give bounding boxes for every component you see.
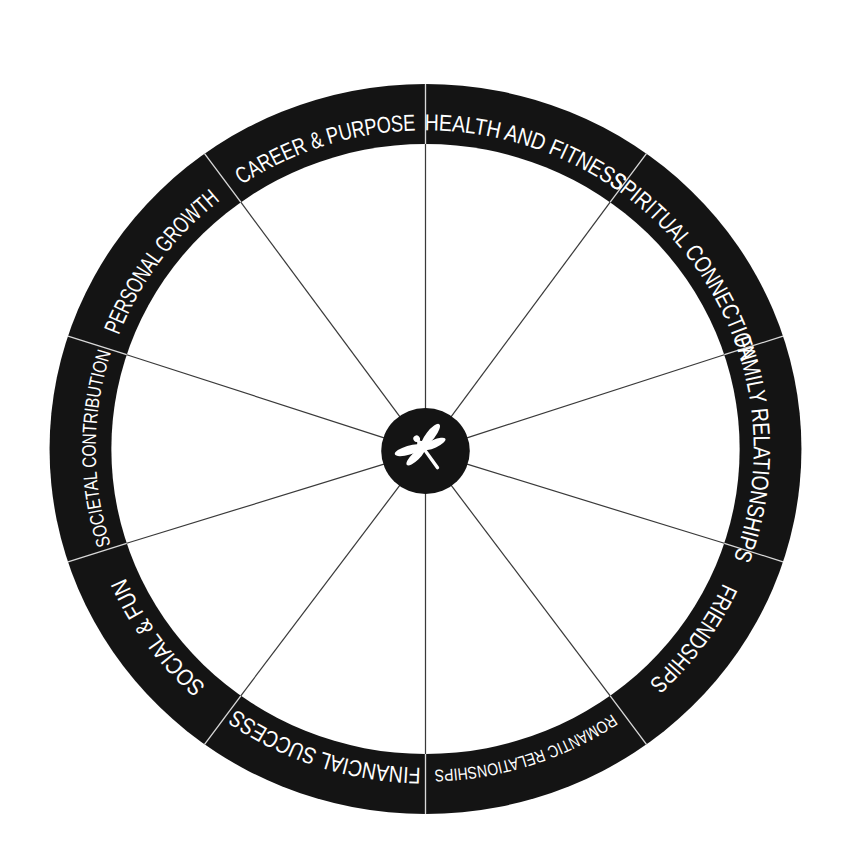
wheel-of-life-diagram: HEALTH AND FITNESSSPIRITUAL CONNECTIONFA… — [0, 0, 843, 855]
